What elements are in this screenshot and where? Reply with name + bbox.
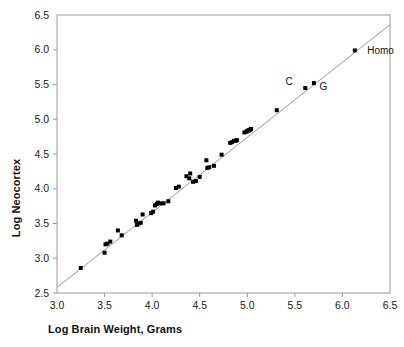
data-point — [204, 158, 208, 162]
data-point — [79, 266, 83, 270]
data-point — [212, 164, 216, 168]
x-axis-title: Log Brain Weight, Grams — [48, 323, 182, 335]
plot-area: 2.53.03.54.04.55.05.56.06.53.03.54.04.55… — [0, 0, 404, 347]
x-tick-label: 5.0 — [240, 299, 255, 311]
x-tick-label: 4.5 — [192, 299, 207, 311]
data-point — [139, 221, 143, 225]
data-point — [207, 165, 211, 169]
data-point — [166, 199, 170, 203]
point-annotation: Homo — [367, 45, 394, 56]
x-tick-label: 5.5 — [288, 299, 303, 311]
x-tick-label: 6.0 — [335, 299, 350, 311]
data-point — [120, 233, 124, 237]
x-tick-label: 6.5 — [383, 299, 398, 311]
x-tick-label: 3.5 — [97, 299, 112, 311]
data-point — [116, 228, 120, 232]
data-point — [303, 86, 307, 90]
data-point — [353, 48, 357, 52]
scatter-chart: 2.53.03.54.04.55.05.56.06.53.03.54.04.55… — [0, 0, 404, 347]
y-tick-label: 2.5 — [34, 287, 49, 299]
y-tick-label: 5.5 — [34, 78, 49, 90]
data-point — [188, 171, 192, 175]
point-annotation: C — [286, 76, 293, 87]
x-tick-label: 3.0 — [50, 299, 65, 311]
y-tick-label: 4.5 — [34, 148, 49, 160]
x-tick-label: 4.0 — [145, 299, 160, 311]
y-tick-label: 5.0 — [34, 113, 49, 125]
data-point — [177, 185, 181, 189]
data-point — [220, 153, 224, 157]
data-point — [194, 179, 198, 183]
y-axis-title: Log Neocortex — [10, 143, 22, 253]
point-annotation: G — [320, 81, 328, 92]
data-point — [198, 175, 202, 179]
y-tick-label: 6.0 — [34, 43, 49, 55]
data-point — [235, 138, 239, 142]
data-point — [103, 251, 107, 255]
y-tick-label: 6.5 — [34, 9, 49, 21]
data-point — [141, 212, 145, 216]
data-point — [187, 176, 191, 180]
data-point — [108, 240, 112, 244]
y-tick-label: 3.5 — [34, 217, 49, 229]
y-tick-label: 4.0 — [34, 182, 49, 194]
data-point — [162, 201, 166, 205]
data-point — [275, 108, 279, 112]
data-point — [249, 127, 253, 131]
y-tick-label: 3.0 — [34, 252, 49, 264]
data-point — [151, 210, 155, 214]
data-point — [312, 81, 316, 85]
